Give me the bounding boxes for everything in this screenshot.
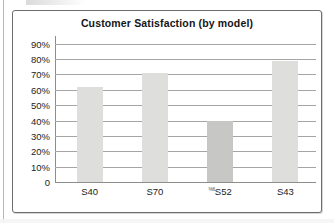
page-edge-line (3, 0, 4, 223)
y-axis-tick-label: 0 (45, 177, 50, 188)
bar-s40[interactable] (77, 87, 103, 182)
y-axis-tick-label: 70% (31, 69, 50, 80)
y-axis-line (55, 36, 56, 182)
gridline (55, 44, 316, 45)
y-axis-tick-label: 80% (31, 54, 50, 65)
y-axis-tick-label: 40% (31, 115, 50, 126)
bar-s52[interactable] (207, 121, 233, 182)
x-axis-tick-label-s70: S70 (146, 186, 163, 197)
y-axis-tick-label: 60% (31, 84, 50, 95)
x-axis-tick-label-s43: S43 (277, 186, 294, 197)
x-axis-tick-label-s40: S40 (81, 186, 98, 197)
y-axis-tick-label: 50% (31, 100, 50, 111)
chart-frame: Customer Satisfaction (by model) 90%80%7… (12, 10, 322, 213)
bar-s70[interactable] (142, 73, 168, 182)
x-axis-baseline (55, 182, 316, 183)
x-axis-tick-label-s52: %6S52 (209, 186, 232, 197)
scan-artifact-bottom (0, 219, 334, 223)
y-axis-tick-label: 10% (31, 161, 50, 172)
x-axis-label-artifact: %6 (209, 186, 215, 192)
bar-s43[interactable] (272, 61, 298, 182)
y-axis-tick-label: 90% (31, 38, 50, 49)
y-axis-tick-label: 20% (31, 146, 50, 157)
plot-area: 90%80%70%60%50%40%30%20%10%0 S40S70%6S52… (55, 36, 316, 182)
chart-title: Customer Satisfaction (by model) (13, 17, 321, 29)
scan-artifact-top (26, 0, 86, 5)
y-axis-tick-label: 30% (31, 130, 50, 141)
